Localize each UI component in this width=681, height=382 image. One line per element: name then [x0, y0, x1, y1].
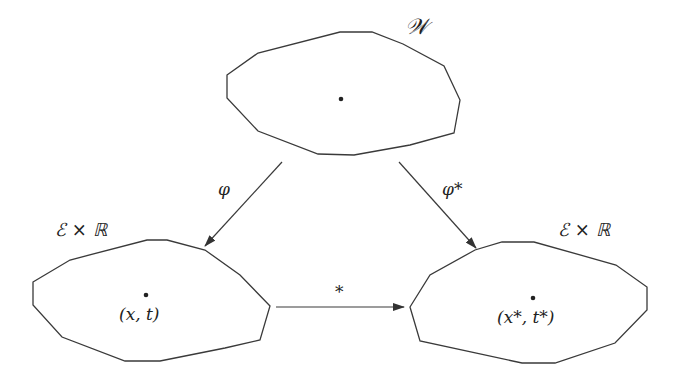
label-right-space: ℰ × ℝ: [558, 221, 610, 239]
label-star: *: [335, 284, 344, 301]
label-phi: φ: [218, 181, 230, 198]
diagram-svg: [0, 0, 681, 382]
point-left: [144, 293, 149, 298]
region-right-e-x-r: [410, 242, 647, 363]
label-left-space: ℰ × ℝ: [55, 221, 107, 239]
arrow-phi: [205, 162, 282, 246]
label-left-point: (x, t): [119, 306, 160, 323]
label-phi-star: φ*: [442, 181, 462, 198]
label-w: 𝒲: [405, 16, 428, 38]
arrow-phi-star: [399, 162, 476, 248]
label-right-point: (x*, t*): [497, 309, 555, 326]
point-top: [339, 97, 344, 102]
region-top-w: [227, 32, 460, 155]
region-left-e-x-r: [33, 240, 270, 361]
point-right: [531, 296, 536, 301]
diagram-canvas: 𝒲 ℰ × ℝ (x, t) ℰ × ℝ (x*, t*) φ φ* *: [0, 0, 681, 382]
